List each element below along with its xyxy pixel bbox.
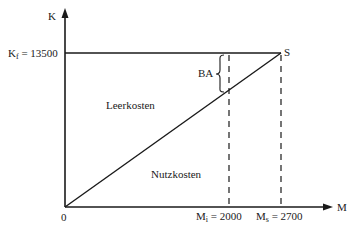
fixed-cost-value: = 13500 — [19, 47, 58, 59]
fixed-cost-symbol: K — [8, 47, 16, 59]
y-axis-label: K — [48, 10, 56, 22]
brace-label: BA — [198, 67, 213, 79]
fixed-cost-label: Kf = 13500 — [8, 47, 58, 59]
m-i-label: Mi = 2000 — [196, 210, 242, 222]
region-lower-label: Nutzkosten — [151, 168, 201, 180]
x-axis-arrow-icon — [323, 204, 333, 211]
m-i-symbol: M — [196, 210, 206, 222]
m-i-value: = 2000 — [208, 210, 242, 222]
point-s-label: S — [284, 46, 290, 58]
m-s-value: = 2700 — [269, 210, 303, 222]
m-s-symbol: M — [256, 210, 266, 222]
y-axis-arrow-icon — [62, 8, 69, 18]
x-axis-label: M — [337, 201, 347, 213]
utilization-line — [65, 53, 281, 207]
region-upper-label: Leerkosten — [106, 99, 155, 111]
origin-label: 0 — [61, 211, 67, 223]
m-s-label: Ms = 2700 — [256, 210, 303, 222]
cost-diagram — [0, 0, 353, 225]
brace-icon — [216, 55, 224, 92]
